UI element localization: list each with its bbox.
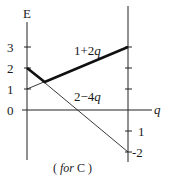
right-tick-label-neg2: -2 [132, 145, 143, 160]
tick-label-3: 3 [7, 40, 14, 55]
tick-label-1: 1 [7, 82, 14, 97]
x-axis-label: q [154, 102, 161, 117]
caption: ( for C ) [53, 161, 92, 175]
tick-label-2: 2 [7, 61, 14, 76]
tick-label-0: 0 [7, 103, 14, 118]
annotation-2-minus-4q: 2−4q [74, 89, 101, 104]
annotation-1-plus-2q: 1+2q [74, 43, 101, 58]
right-tick-label-neg1: 1 [138, 124, 145, 139]
chart: E q 3 2 1 0 1 -2 1+2q 2−4q ( for C ) [0, 0, 176, 183]
y-axis-label: E [23, 6, 31, 21]
